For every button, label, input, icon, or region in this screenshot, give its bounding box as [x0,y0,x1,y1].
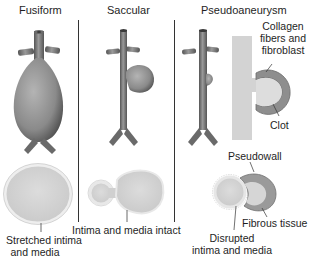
label-disrupted-1: Disrupted [196,232,268,244]
label-clot: Clot [270,119,289,131]
label-collagen-2: fibers and [256,32,309,44]
pseudoaneurysm-vessel [182,29,219,146]
label-fibrous-tissue: Fibrous tissue [242,217,307,229]
label-collagen-3: fibroblast [256,44,309,56]
fusiform-vessel [14,30,63,154]
title-fusiform: Fusiform [19,4,62,16]
fusiform-cross-section [4,164,73,233]
title-pseudoaneurysm: Pseudoaneurysm [201,4,287,16]
saccular-cross-section [88,171,163,222]
label-disrupted-2: intima and media [190,244,274,256]
label-pseudowall: Pseudowall [228,150,282,162]
label-collagen-1: Collagen [258,20,308,32]
title-saccular: Saccular [107,4,150,16]
label-stretched-intima-2: and media [4,246,66,258]
saccular-vessel [106,29,154,146]
label-intima-media-intact: Intima and media intact [72,224,181,236]
